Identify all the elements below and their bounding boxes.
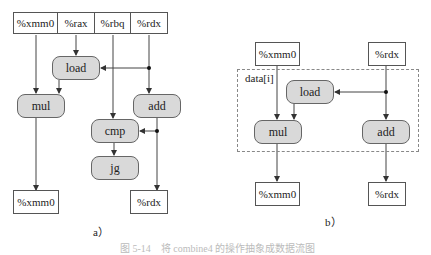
register-rdx-out: %rdx	[368, 182, 406, 206]
register-xmm0-out: %xmm0	[255, 182, 300, 206]
op-cmp: cmp	[91, 119, 139, 143]
diagram-a-label: a）	[93, 223, 109, 239]
register-xmm0: %xmm0	[13, 12, 58, 34]
op-mul: mul	[254, 120, 302, 144]
op-load: load	[52, 56, 100, 80]
op-mul: mul	[17, 94, 65, 118]
register-xmm0-in: %xmm0	[255, 42, 300, 66]
figure-caption: 图 5-14 将 combine4 的操作抽象成数据流图	[120, 240, 315, 255]
op-add: add	[133, 94, 181, 118]
register-rax: %rax	[58, 12, 95, 34]
register-xmm0-out: %xmm0	[13, 190, 59, 214]
diagram-b-label: b）	[325, 213, 342, 229]
loop-box-label: data[i]	[245, 72, 274, 84]
diagram-a-top-registers: %xmm0 %rax %rbq %rdx	[13, 12, 168, 34]
op-load: load	[286, 80, 334, 104]
op-add: add	[362, 120, 410, 144]
register-rbq: %rbq	[95, 12, 131, 34]
register-rdx-in: %rdx	[368, 42, 406, 66]
register-rdx-out: %rdx	[130, 190, 168, 214]
op-jg: jg	[91, 156, 139, 180]
register-rdx: %rdx	[131, 12, 168, 34]
